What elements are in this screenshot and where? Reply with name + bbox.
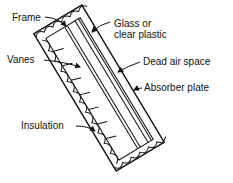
label-insulation: Insulation xyxy=(21,120,64,131)
label-frame: Frame xyxy=(12,12,41,23)
label-vanes: Vanes xyxy=(7,54,35,65)
label-glass-2: clear plastic xyxy=(114,29,167,40)
label-dead-air: Dead air space xyxy=(143,56,211,67)
label-glass-1: Glass or xyxy=(114,18,152,29)
diagram-svg: Frame Glass or clear plastic Vanes Dead … xyxy=(0,0,233,183)
collector-diagram: Frame Glass or clear plastic Vanes Dead … xyxy=(0,0,233,183)
label-absorber: Absorber plate xyxy=(144,82,209,93)
